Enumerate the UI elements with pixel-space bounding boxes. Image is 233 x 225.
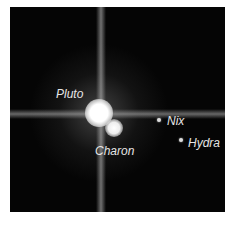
charon-body — [105, 119, 123, 137]
label-charon: Charon — [95, 145, 134, 157]
diffraction-spike-horizontal — [10, 109, 225, 119]
hydra-body — [179, 138, 183, 142]
label-nix: Nix — [167, 115, 184, 127]
label-hydra: Hydra — [188, 137, 220, 149]
label-pluto: Pluto — [56, 88, 83, 100]
space-photo: Pluto Charon Nix Hydra — [10, 7, 225, 212]
nix-body — [157, 118, 161, 122]
